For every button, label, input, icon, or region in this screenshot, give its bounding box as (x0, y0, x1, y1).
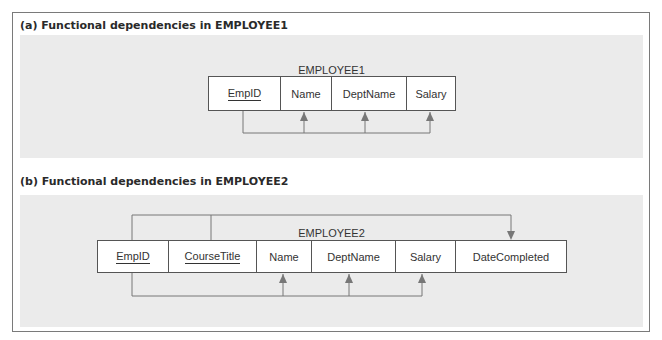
arrowhead-icons (279, 231, 515, 283)
dependency-arrows-b (0, 0, 662, 340)
